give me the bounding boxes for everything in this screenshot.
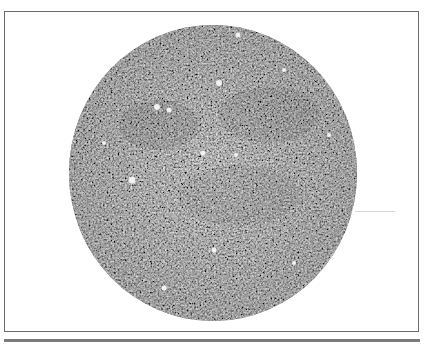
bottom-divider [4,339,420,342]
speckle-texture [69,25,357,321]
micrograph-disc [69,25,357,321]
light-streak [355,211,395,212]
